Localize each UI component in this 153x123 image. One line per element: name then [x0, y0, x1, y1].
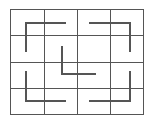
bottom-left-corner-segment [26, 72, 65, 101]
top-left-corner-segment [26, 23, 65, 51]
center-corner-segment [62, 47, 95, 74]
grid-maze-diagram [0, 0, 153, 123]
grid-lines [10, 9, 144, 115]
